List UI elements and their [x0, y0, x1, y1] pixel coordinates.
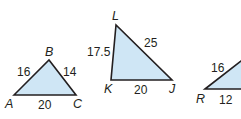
vertex-a-label: A [4, 97, 13, 111]
vertex-k-label: K [104, 82, 113, 96]
side-r-upper-label: 16 [211, 61, 225, 75]
side-lj-label: 25 [144, 36, 158, 50]
side-kj-label: 20 [134, 83, 148, 97]
side-ac-label: 20 [38, 98, 52, 112]
vertex-j-label: J [168, 82, 176, 96]
vertex-b-label: B [45, 45, 53, 59]
vertex-r-label: R [196, 92, 205, 106]
triangles-diagram: B A C 16 14 20 L K J 17.5 25 20 R 16 12 [0, 0, 241, 119]
triangle-lkj-shape [111, 25, 172, 80]
triangle-lkj: L K J 17.5 25 20 [87, 9, 176, 97]
side-r-base-label: 12 [219, 93, 233, 107]
side-bc-label: 14 [63, 65, 77, 79]
side-kl-label: 17.5 [87, 45, 111, 59]
side-ab-label: 16 [17, 65, 31, 79]
vertex-c-label: C [73, 97, 83, 111]
triangle-abc: B A C 16 14 20 [4, 45, 83, 112]
triangle-r-partial: R 16 12 [196, 58, 241, 107]
vertex-l-label: L [112, 9, 119, 23]
